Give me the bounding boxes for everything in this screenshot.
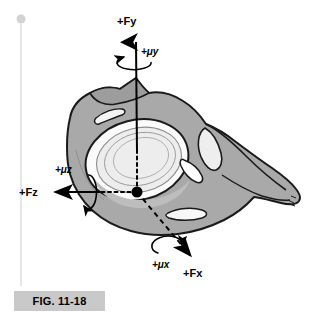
mux-label: +μx: [152, 259, 170, 270]
mux-rotation-arc: [151, 235, 183, 254]
figure-page: +Fy +μy +Fz +μz +Fx +μx FIG. 11-18: [0, 0, 323, 314]
figure-caption-box: FIG. 11-18: [14, 291, 105, 311]
origin-point: [132, 187, 143, 198]
fz-label: +Fz: [19, 186, 38, 198]
figure-caption-text: FIG. 11-18: [33, 295, 87, 307]
muy-rotation-arc: [117, 57, 151, 70]
fx-label: +Fx: [183, 267, 203, 279]
muy-label: +μy: [141, 46, 159, 57]
fy-label: +Fy: [117, 15, 137, 27]
muz-label: +μz: [55, 164, 72, 175]
margin-rule: [17, 15, 26, 287]
figure-illustration: +Fy +μy +Fz +μz +Fx +μx: [0, 0, 323, 314]
scapula-illustration: [67, 78, 300, 235]
fy-axis-solid: [136, 42, 137, 152]
